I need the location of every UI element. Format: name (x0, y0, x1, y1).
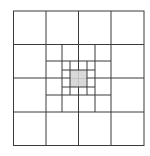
nested-grid-diagram (0, 0, 150, 156)
